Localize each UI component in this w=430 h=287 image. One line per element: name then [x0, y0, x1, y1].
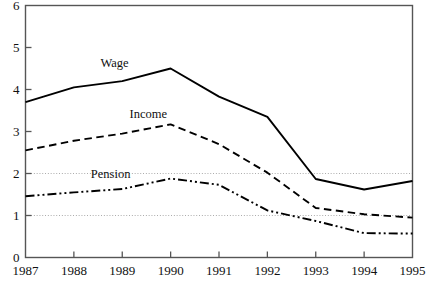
plot-frame: [26, 6, 413, 258]
x-axis-tick-label: 1995: [393, 264, 430, 277]
y-axis-tick-label: 5: [13, 41, 20, 54]
y-axis-tick-label: 3: [13, 125, 20, 138]
x-axis-tick-label: 1987: [6, 264, 46, 277]
x-axis-tick-label: 1988: [54, 264, 94, 277]
series-label-pension: Pension: [91, 168, 131, 181]
y-axis-tick-label: 6: [13, 0, 20, 12]
y-axis-tick-label: 4: [13, 83, 20, 96]
x-axis-tick-label: 1989: [102, 264, 142, 277]
series-label-income: Income: [130, 108, 167, 121]
series-line-income: [26, 124, 413, 217]
y-axis-tick-label: 1: [13, 209, 20, 222]
x-axis-tick-label: 1993: [296, 264, 336, 277]
x-axis-tick-label: 1994: [344, 264, 384, 277]
series-line-wage: [26, 69, 413, 190]
x-axis-tick-label: 1991: [199, 264, 239, 277]
series-label-wage: Wage: [100, 57, 128, 70]
y-axis-tick-label: 2: [13, 167, 20, 180]
x-axis-tick-label: 1992: [247, 264, 287, 277]
x-axis-tick-label: 1990: [151, 264, 191, 277]
